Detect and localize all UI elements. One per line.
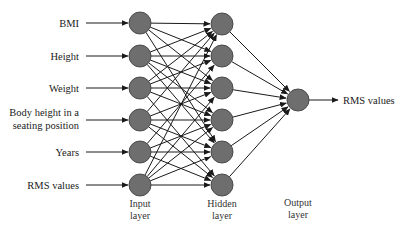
hidden-node xyxy=(211,77,233,99)
hidden-layer-label: Hidden xyxy=(207,198,236,209)
input-layer-label: Input xyxy=(129,198,150,209)
neural-network-diagram: BMIHeightWeightBody height in aseating p… xyxy=(0,0,403,235)
input-node xyxy=(129,12,151,34)
input-node xyxy=(129,109,151,131)
input-label: BMI xyxy=(59,18,79,29)
output-layer-label: layer xyxy=(288,209,309,220)
input-node xyxy=(129,77,151,99)
input-label: RMS values xyxy=(27,180,79,191)
connection-hidden-output xyxy=(229,109,290,177)
input-layer-label: layer xyxy=(130,210,151,221)
input-label: Years xyxy=(56,147,79,158)
input-node xyxy=(129,45,151,67)
connection-hidden-output xyxy=(233,90,286,98)
connection-hidden-output xyxy=(233,103,287,117)
hidden-node xyxy=(211,174,233,196)
hidden-node xyxy=(211,141,233,163)
input-label: Body height in aseating position xyxy=(9,107,79,131)
input-node xyxy=(129,141,151,163)
hidden-node xyxy=(211,13,233,35)
connection-hidden-output xyxy=(232,62,288,94)
hidden-node xyxy=(211,109,233,131)
hidden-node xyxy=(211,45,233,67)
hidden-layer-label: layer xyxy=(212,210,233,221)
input-label: Weight xyxy=(49,83,79,94)
connection-hidden-output xyxy=(230,32,290,92)
connection-input-hidden xyxy=(151,23,210,24)
connection-hidden-output xyxy=(231,107,288,146)
output-node xyxy=(287,89,309,111)
connection-input-hidden xyxy=(147,33,214,112)
output-label: RMS values xyxy=(343,95,395,106)
input-node xyxy=(129,174,151,196)
output-layer-label: Output xyxy=(284,197,312,208)
input-label: Height xyxy=(50,51,79,62)
